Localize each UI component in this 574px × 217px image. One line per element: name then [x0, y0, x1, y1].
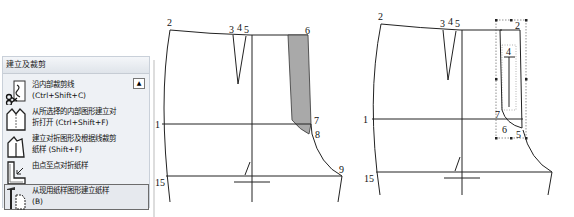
build-pattern-from-shape-icon — [5, 185, 27, 211]
fold-open-from-shape-icon — [5, 106, 27, 132]
build-and-cut-panel: 建立及裁剪 ▲ 沿内部裁剪线 (Ctrl+Shift+C) 从所选择的内部图形建 — [2, 56, 150, 208]
panel-title: 建立及裁剪 — [3, 57, 149, 74]
svg-text:7: 7 — [314, 115, 319, 126]
panel-body: ▲ 沿内部裁剪线 (Ctrl+Shift+C) 从所选择的内部图形建立对 折打 — [3, 74, 149, 208]
menu-item-label: 建立对折图形及根据线裁剪 — [32, 133, 116, 144]
menu-item-label-line2: 纸样 (Shift+F) — [32, 144, 116, 155]
svg-text:5: 5 — [516, 129, 521, 140]
svg-text:15: 15 — [364, 173, 374, 184]
svg-text:1: 1 — [155, 119, 160, 130]
pattern-diagram-after: 2 3 4 5 2 4 1 7 6 5 15 — [360, 0, 574, 217]
fold-shape-cut-pattern-icon — [5, 133, 27, 159]
menu-item-label: 从现用纸样图形建立纸样 — [32, 185, 109, 196]
svg-text:3: 3 — [440, 18, 445, 29]
svg-text:4: 4 — [448, 16, 453, 27]
menu-item-fold-shape-cut-pattern[interactable]: 建立对折图形及根据线裁剪 纸样 (Shift+F) — [5, 133, 147, 159]
svg-text:7: 7 — [495, 109, 500, 120]
menu-item-label: 沿内部裁剪线 — [32, 79, 86, 90]
svg-text:2: 2 — [378, 11, 383, 22]
point-labels: 2 3 4 5 2 4 1 7 6 5 15 — [363, 11, 521, 184]
menu-item-fold-open-from-shape[interactable]: 从所选择的内部图形建立对 折打开 (Ctrl+Shift+F) — [5, 106, 147, 132]
pattern-diagram-before: 2 3 4 5 6 1 7 8 15 9 — [150, 0, 360, 217]
svg-text:8: 8 — [315, 129, 320, 140]
svg-text:2: 2 — [515, 20, 520, 31]
svg-text:4: 4 — [506, 46, 511, 57]
svg-text:5: 5 — [244, 24, 249, 35]
cut-along-inner-line-icon — [5, 79, 27, 105]
svg-text:3: 3 — [229, 24, 234, 35]
menu-item-label: 从所选择的内部图形建立对 — [32, 106, 116, 117]
svg-text:9: 9 — [339, 164, 344, 175]
menu-item-cut-along-inner-line[interactable]: 沿内部裁剪线 (Ctrl+Shift+C) — [5, 79, 147, 105]
svg-text:2: 2 — [167, 17, 172, 28]
menu-item-label-line2: 折打开 (Ctrl+Shift+F) — [32, 117, 116, 128]
menu-item-shortcut: (B) — [32, 196, 109, 207]
menu-item-point-to-point-fold[interactable]: 由点至点对折纸样 — [5, 160, 147, 186]
menu-item-label: 由点至点对折纸样 — [32, 160, 88, 171]
menu-item-shortcut: (Ctrl+Shift+C) — [32, 90, 86, 101]
menu-item-build-pattern-from-shape[interactable]: 从现用纸样图形建立纸样 (B) — [4, 184, 149, 210]
svg-text:4: 4 — [237, 22, 242, 33]
svg-text:6: 6 — [305, 25, 310, 36]
svg-text:1: 1 — [363, 114, 368, 125]
svg-text:15: 15 — [155, 177, 165, 188]
svg-text:6: 6 — [502, 124, 507, 135]
point-to-point-fold-icon — [5, 160, 27, 186]
svg-text:5: 5 — [455, 18, 460, 29]
